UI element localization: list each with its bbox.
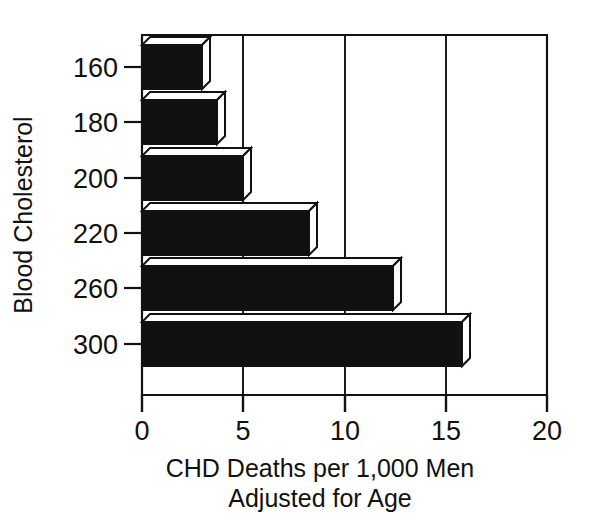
bar-group-220 [142, 203, 317, 255]
bar-top-face-180 [142, 92, 225, 100]
x-tick-label-5: 5 [235, 416, 250, 446]
y-axis-title: Blood Cholesterol [9, 116, 37, 313]
bar-side-face-200 [243, 148, 251, 200]
x-axis-title-line-2: Adjusted for Age [228, 484, 411, 512]
bar-top-face-260 [142, 258, 401, 266]
chart-figure: 160 180 200 220 260 300 0 5 10 15 20 Blo… [0, 0, 597, 521]
y-tick-label-300: 300 [73, 330, 118, 360]
bar-front-face-300 [142, 322, 462, 366]
y-tick-label-220: 220 [73, 219, 118, 249]
x-tick-label-15: 15 [431, 416, 461, 446]
bar-group-180 [142, 92, 225, 144]
x-tick-label-10: 10 [330, 416, 360, 446]
y-tick-label-160: 160 [73, 53, 118, 83]
bar-side-face-220 [309, 203, 317, 255]
bar-top-face-200 [142, 148, 251, 156]
bar-top-face-220 [142, 203, 317, 211]
x-tick-label-20: 20 [532, 416, 562, 446]
bar-front-face-180 [142, 100, 217, 144]
bar-top-face-160 [142, 37, 210, 45]
bar-front-face-260 [142, 266, 393, 310]
bar-side-face-180 [217, 92, 225, 144]
bar-front-face-220 [142, 211, 309, 255]
bar-chart-canvas: 160 180 200 220 260 300 0 5 10 15 20 Blo… [0, 0, 597, 521]
bar-front-face-160 [142, 45, 202, 89]
bar-front-face-200 [142, 156, 243, 200]
bar-group-300 [142, 314, 470, 366]
bar-group-200 [142, 148, 251, 200]
bar-group-260 [142, 258, 401, 310]
y-tick-label-200: 200 [73, 164, 118, 194]
bar-side-face-260 [393, 258, 401, 310]
bar-top-face-300 [142, 314, 470, 322]
bar-side-face-160 [202, 37, 210, 89]
x-axis-title-line-1: CHD Deaths per 1,000 Men [166, 454, 474, 482]
x-tick-label-0: 0 [134, 416, 149, 446]
y-tick-label-260: 260 [73, 274, 118, 304]
bar-side-face-300 [462, 314, 470, 366]
y-tick-label-180: 180 [73, 108, 118, 138]
bar-group-160 [142, 37, 210, 89]
